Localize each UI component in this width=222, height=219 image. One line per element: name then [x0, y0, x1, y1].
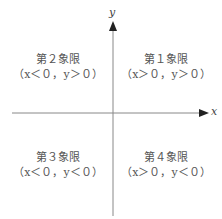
quadrant-3-name: 第３象限 [8, 150, 108, 165]
quadrant-1-condition: （x＞０，y＞０） [116, 67, 216, 82]
quadrant-4-name: 第４象限 [116, 150, 216, 165]
y-axis-label: y [109, 6, 115, 19]
quadrant-3-condition: （x＜０，y＜０） [8, 165, 108, 180]
quadrant-2: 第２象限 （x＜０，y＞０） [8, 52, 108, 82]
quadrant-2-name: 第２象限 [8, 52, 108, 67]
quadrant-1-name: 第１象限 [116, 52, 216, 67]
x-axis-arrow-icon [199, 109, 209, 117]
quadrant-1: 第１象限 （x＞０，y＞０） [116, 52, 216, 82]
x-axis-label: x [211, 105, 217, 118]
coordinate-axes [0, 0, 222, 219]
quadrant-4: 第４象限 （x＞０，y＜０） [116, 150, 216, 180]
y-axis-arrow-icon [109, 21, 117, 31]
quadrant-4-condition: （x＞０，y＜０） [116, 165, 216, 180]
quadrant-3: 第３象限 （x＜０，y＜０） [8, 150, 108, 180]
quadrant-2-condition: （x＜０，y＞０） [8, 67, 108, 82]
